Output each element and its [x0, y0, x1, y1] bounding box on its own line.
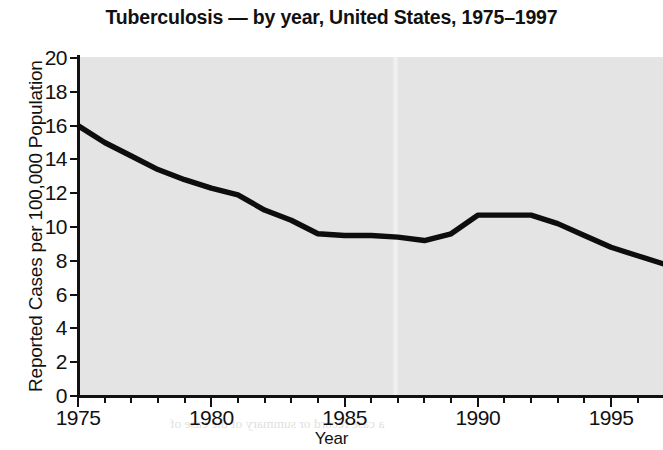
y-axis-tick — [70, 91, 78, 93]
x-axis-minor-tick — [397, 396, 399, 403]
y-axis-tick-label: 12 — [45, 182, 67, 203]
x-axis-minor-tick — [237, 396, 239, 403]
x-axis-minor-tick — [290, 396, 292, 403]
y-axis-tick-label: 6 — [56, 284, 67, 305]
x-axis-minor-tick — [503, 396, 505, 403]
x-axis-minor-tick — [423, 396, 425, 403]
x-axis-tick-label: 1990 — [443, 407, 513, 429]
y-axis-tick — [70, 294, 78, 296]
x-axis-minor-tick — [637, 396, 639, 403]
x-axis-minor-tick — [264, 396, 266, 403]
chart-title: Tuberculosis — by year, United States, 1… — [0, 6, 663, 29]
x-axis-minor-tick — [130, 396, 132, 403]
y-axis-tick — [70, 361, 78, 363]
y-axis-tick — [70, 327, 78, 329]
y-axis-tick — [70, 158, 78, 160]
x-axis-minor-tick — [530, 396, 532, 403]
x-axis-tick-label: 1985 — [310, 407, 380, 429]
x-axis-minor-tick — [450, 396, 452, 403]
y-axis-tick — [70, 226, 78, 228]
x-axis-title: Year — [0, 429, 663, 449]
y-axis-tick-label: 4 — [56, 317, 67, 338]
y-axis-tick — [70, 125, 78, 127]
x-axis-minor-tick — [557, 396, 559, 403]
y-axis-tick-label: 18 — [45, 81, 67, 102]
y-axis-tick-label: 20 — [45, 47, 67, 68]
x-axis-tick-label: 1975 — [43, 407, 113, 429]
x-axis-minor-tick — [317, 396, 319, 403]
y-axis-tick-label: 2 — [56, 351, 67, 372]
y-axis-tick — [70, 57, 78, 59]
y-axis-title: Reported Cases per 100,000 Population — [26, 60, 45, 392]
x-axis-minor-tick — [157, 396, 159, 403]
x-axis-minor-tick — [370, 396, 372, 403]
y-axis-tick-label: 16 — [45, 115, 67, 136]
y-axis-tick-label: 8 — [56, 250, 67, 271]
x-axis-tick-label: 1980 — [176, 407, 246, 429]
chart-plot: 20181614121086420 19751980198519901995 — [0, 0, 663, 450]
y-axis-tick-label: 14 — [45, 148, 67, 169]
y-axis-tick — [70, 260, 78, 262]
plot-area-background — [80, 57, 663, 396]
y-axis-tick-label: 10 — [45, 216, 67, 237]
x-axis-minor-tick — [184, 396, 186, 403]
x-axis-minor-tick — [583, 396, 585, 403]
y-axis-tick-label: 0 — [56, 385, 67, 406]
y-axis-tick — [70, 192, 78, 194]
x-axis-tick-label: 1995 — [576, 407, 646, 429]
x-axis-minor-tick — [104, 396, 106, 403]
